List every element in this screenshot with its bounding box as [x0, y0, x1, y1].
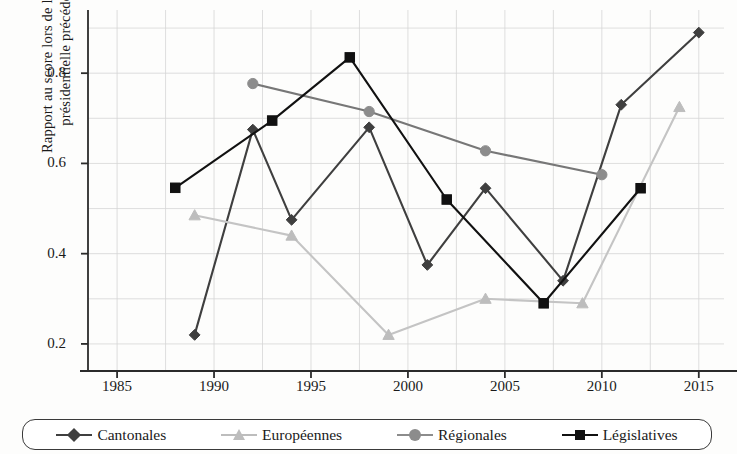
legend-marker-diamond-icon: [56, 428, 92, 442]
series-line-régionales: [253, 84, 602, 175]
data-point-circle: [364, 106, 374, 116]
legend-label: Législatives: [603, 426, 678, 444]
data-point-square: [636, 183, 646, 193]
legend-label: Européennes: [262, 426, 342, 444]
legend-item-législatives[interactable]: Législatives: [562, 426, 678, 444]
data-point-square: [539, 299, 549, 309]
data-point-circle: [248, 78, 258, 88]
legend-label: Régionales: [438, 426, 507, 444]
series-line-européennes: [195, 107, 680, 335]
chart-container: Rapport au score lors de l'élection prés…: [0, 0, 737, 454]
data-point-square: [171, 183, 181, 193]
plot-area: [0, 0, 737, 410]
legend-marker-triangle-icon: [221, 428, 257, 442]
data-point-triangle: [189, 210, 200, 220]
data-point-triangle: [674, 101, 685, 111]
legend-item-régionales[interactable]: Régionales: [397, 426, 507, 444]
data-point-circle: [597, 170, 607, 180]
data-point-circle: [480, 146, 490, 156]
data-point-square: [345, 53, 355, 63]
data-point-square: [267, 116, 277, 126]
legend-item-cantonales[interactable]: Cantonales: [56, 426, 166, 444]
series-line-cantonales: [195, 33, 699, 335]
legend-marker-circle-icon: [397, 428, 433, 442]
data-point-square: [442, 195, 452, 205]
legend-label: Cantonales: [97, 426, 166, 444]
chart-legend: CantonalesEuropéennesRégionalesLégislati…: [22, 419, 712, 450]
legend-item-européennes[interactable]: Européennes: [221, 426, 342, 444]
legend-marker-square-icon: [562, 428, 598, 442]
data-point-diamond: [189, 330, 200, 341]
